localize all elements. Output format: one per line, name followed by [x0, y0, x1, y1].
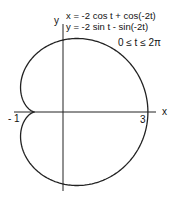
equation-x: x = -2 cos t + cos(-2t): [66, 11, 156, 21]
equation-y: y = -2 sin t - sin(-2t): [66, 22, 148, 32]
tick-label-3: 3: [140, 115, 146, 125]
y-axis-label: y: [54, 16, 59, 26]
tick-label-neg1: - 1: [8, 114, 20, 124]
x-axis-label: x: [162, 107, 167, 117]
parameter-range: 0 ≤ t ≤ 2π: [118, 38, 161, 48]
